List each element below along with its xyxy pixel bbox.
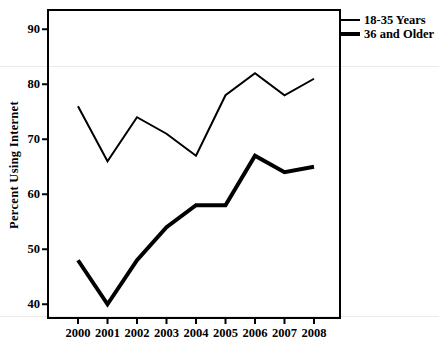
legend: 18-35 Years 36 and Older <box>340 13 434 41</box>
x-tick-label: 2008 <box>294 327 334 340</box>
legend-label: 36 and Older <box>364 27 434 42</box>
legend-item-18-35: 18-35 Years <box>340 13 434 27</box>
y-tick-label: 70 <box>12 133 40 145</box>
thick-line-sample-icon <box>340 32 360 36</box>
y-tick-label: 90 <box>12 23 40 35</box>
y-tick-label: 40 <box>12 298 40 310</box>
series-line-thick <box>78 156 314 305</box>
y-tick-label: 60 <box>12 188 40 200</box>
plot-area <box>0 0 439 351</box>
y-tick-label: 50 <box>12 243 40 255</box>
line-chart-figure: Percent Using Internet 40506070809020002… <box>0 0 439 351</box>
legend-label: 18-35 Years <box>364 13 426 28</box>
thin-line-sample-icon <box>340 19 360 21</box>
y-tick-label: 80 <box>12 78 40 90</box>
legend-item-36-older: 36 and Older <box>340 27 434 41</box>
series-line-thin <box>78 73 314 161</box>
plot-frame <box>48 10 340 318</box>
